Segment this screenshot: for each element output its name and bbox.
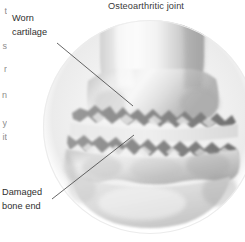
callout-line-2: cartilage bbox=[12, 26, 47, 40]
lower-bone-highlight bbox=[98, 186, 186, 220]
joint-illustration bbox=[42, 19, 245, 235]
edge-text-fragment: s bbox=[0, 41, 7, 51]
edge-text-fragment: n bbox=[0, 90, 7, 100]
callout-line-1: Worn bbox=[12, 12, 47, 26]
edge-text-fragment: y bbox=[0, 118, 7, 128]
edge-text-fragment: it bbox=[0, 132, 7, 142]
edge-text-fragment: r bbox=[0, 64, 7, 74]
callout-label-damaged-bone-end: Damaged bone end bbox=[2, 186, 42, 213]
osteoarthritic-joint-figure: Osteoarthritic joint t s r n y it bbox=[0, 0, 245, 242]
callout-line-2: bone end bbox=[2, 200, 42, 214]
shaft-highlight bbox=[115, 19, 134, 87]
callout-line-1: Damaged bbox=[2, 186, 42, 200]
callout-label-worn-cartilage: Worn cartilage bbox=[12, 12, 47, 39]
edge-text-fragment: t bbox=[0, 6, 7, 16]
page-title: Osteoarthritic joint bbox=[86, 1, 206, 11]
